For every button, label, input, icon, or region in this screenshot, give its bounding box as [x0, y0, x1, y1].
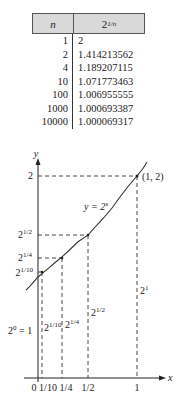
- height-label-quarter: 21/4: [65, 318, 79, 330]
- height-label-half: 21/2: [91, 306, 105, 318]
- height-label-tenth: 21/10: [44, 321, 62, 333]
- y-axis-arrow-icon: [36, 158, 41, 165]
- origin-value-label: 20 = 1: [8, 324, 32, 336]
- point-half: [87, 234, 90, 237]
- x-tick-half: 1/2: [82, 382, 95, 393]
- x-axis-arrow-icon: [159, 376, 166, 381]
- x-axis-label: x: [167, 372, 173, 383]
- point-1-2: [136, 175, 139, 178]
- curve-label: y = 2x: [83, 200, 109, 212]
- y-tick-2: 2: [28, 170, 33, 181]
- height-label-one: 21: [140, 284, 149, 296]
- point-label: (1, 2): [142, 171, 164, 183]
- x-tick-tenth: 1/10: [39, 382, 57, 393]
- exponential-graph: y x 2 21/2 21/4 21/10 y = 2x (1, 2) 20 =…: [0, 0, 187, 403]
- x-tick-0: 0: [32, 382, 37, 393]
- y-tick-tenth: 21/10: [16, 266, 34, 278]
- point-quarter: [61, 257, 64, 260]
- point-tenth: [41, 271, 44, 274]
- x-tick-quarter: 1/4: [60, 382, 73, 393]
- y-tick-quarter: 21/4: [18, 251, 32, 263]
- y-axis-label: y: [33, 148, 39, 159]
- y-tick-half: 21/2: [18, 228, 32, 240]
- curve-2-to-x: [26, 162, 147, 290]
- x-tick-1: 1: [135, 382, 140, 393]
